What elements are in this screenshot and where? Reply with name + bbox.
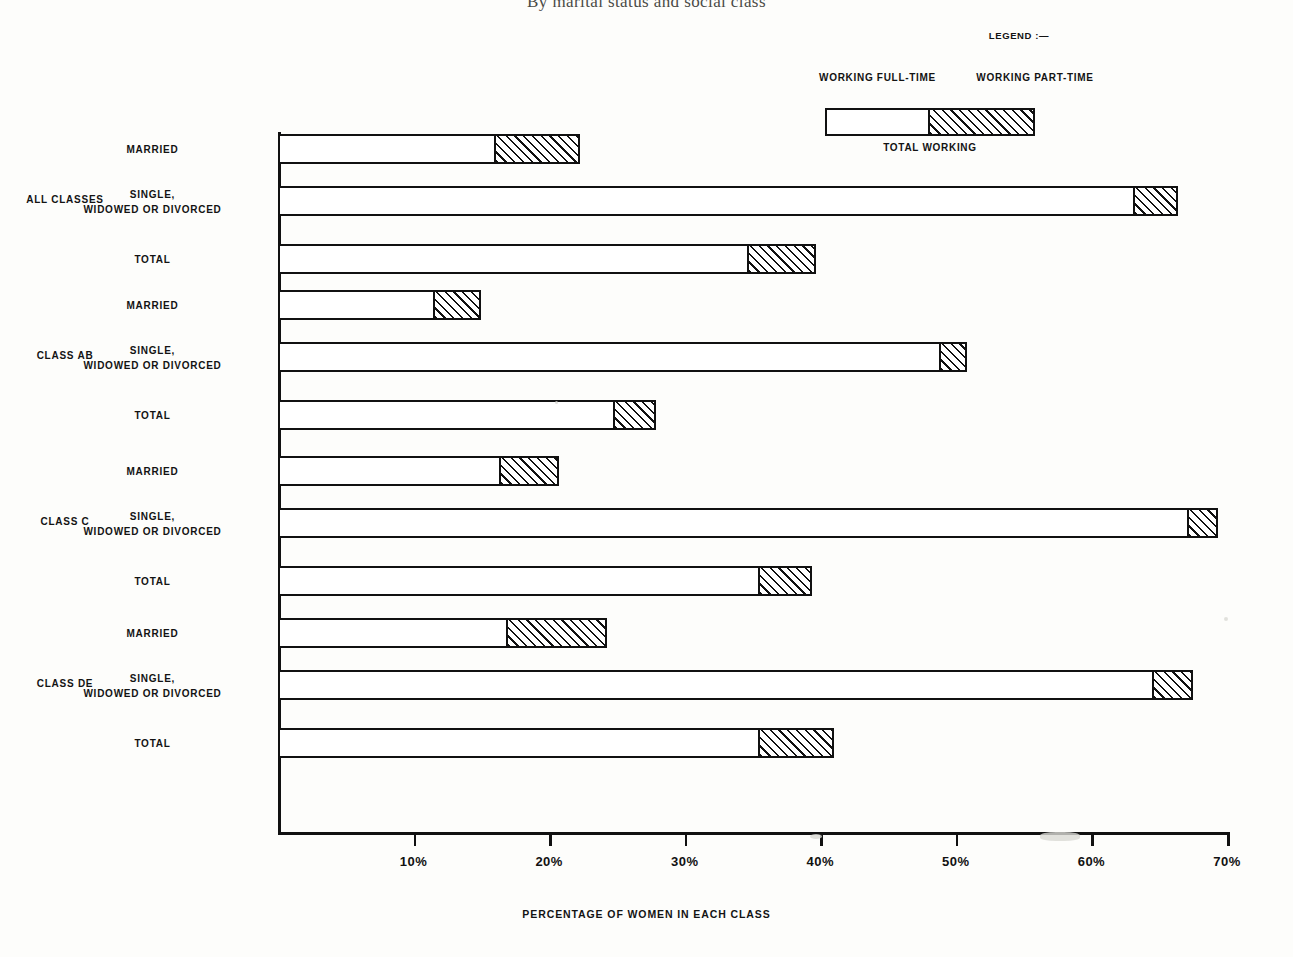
row-label: TOTAL [35,252,270,267]
row-label-line: TOTAL [35,574,270,589]
bar-segment-part-time [758,568,810,594]
group-label: CLASS DE [0,678,130,689]
row-label: TOTAL [35,408,270,423]
legend-heading: LEGEND :— [918,30,1120,41]
bar-segment-full-time [280,458,499,484]
bar [278,134,580,164]
bar-segment-part-time [613,402,655,428]
row-label-line: MARRIED [35,464,270,479]
bar [278,400,656,430]
bar [278,244,816,274]
page-title: By marital status and social class [0,0,1293,12]
bar-segment-full-time [280,672,1152,698]
bar-segment-full-time [280,402,613,428]
x-axis-tick [414,832,417,846]
bar-segment-part-time [1152,672,1191,698]
x-axis-tick-label: 20% [535,854,563,869]
plot-area: 10%20%30%40%50%60%70% [278,132,1227,832]
row-label: MARRIED [35,298,270,313]
group-label: ALL CLASSES [0,194,130,205]
bar-segment-part-time [939,344,965,370]
legend-swatch-part-time [928,110,1033,134]
legend-swatch-full-time [827,110,928,134]
x-axis-tick-label: 40% [807,854,835,869]
x-axis-tick [956,832,959,846]
bar [278,728,834,758]
bar-segment-full-time [280,344,939,370]
bar-segment-part-time [494,136,578,162]
bar [278,508,1218,538]
row-label-line: MARRIED [35,626,270,641]
row-label: MARRIED [35,464,270,479]
bar-segment-full-time [280,246,747,272]
legend-series-labels: WORKING FULL-TIME WORKING PART-TIME [800,72,1120,83]
x-axis-line [278,832,1230,835]
bar-segment-full-time [280,188,1133,214]
row-label-line: MARRIED [35,142,270,157]
paper-speck [555,401,558,404]
bar-segment-part-time [1133,188,1176,214]
x-axis-tick-label: 60% [1078,854,1106,869]
group-label: CLASS AB [0,350,130,361]
bar [278,290,481,320]
bar-segment-full-time [280,292,433,318]
x-axis-tick [1091,832,1094,846]
row-label: TOTAL [35,574,270,589]
bar [278,186,1178,216]
x-axis-tick-label: 10% [400,854,428,869]
bar-segment-part-time [758,730,832,756]
bar-segment-part-time [747,246,814,272]
row-label: MARRIED [35,626,270,641]
row-label-line: TOTAL [35,408,270,423]
x-axis-tick [685,832,688,846]
bar-segment-full-time [280,620,506,646]
x-axis-tick-label: 50% [942,854,970,869]
chart-legend: LEGEND :— WORKING FULL-TIME WORKING PART… [800,30,1120,41]
row-label-line: TOTAL [35,252,270,267]
paper-speck [1224,617,1228,621]
paper-speck [810,834,822,839]
row-label: TOTAL [35,736,270,751]
bar [278,342,967,372]
row-label-line: MARRIED [35,298,270,313]
legend-label-full-time: WORKING FULL-TIME [800,72,955,83]
bar-segment-part-time [499,458,556,484]
bar-segment-full-time [280,136,494,162]
x-axis-tick-label: 70% [1213,854,1241,869]
x-axis-tick-label: 30% [671,854,699,869]
row-label-line: TOTAL [35,736,270,751]
x-axis-title: PERCENTAGE OF WOMEN IN EACH CLASS [0,908,1293,920]
bar [278,566,812,596]
bar-segment-part-time [506,620,605,646]
group-label: CLASS C [0,516,130,527]
row-label: MARRIED [35,142,270,157]
bar-segment-full-time [280,730,758,756]
bar-segment-part-time [433,292,480,318]
bar-segment-full-time [280,510,1187,536]
bar [278,670,1193,700]
x-axis-tick [549,832,552,846]
bar-segment-part-time [1187,510,1215,536]
paper-speck [1040,832,1080,841]
legend-label-part-time: WORKING PART-TIME [955,72,1115,83]
bar [278,456,559,486]
x-axis-tick [1227,832,1230,846]
bar [278,618,607,648]
bar-segment-full-time [280,568,758,594]
